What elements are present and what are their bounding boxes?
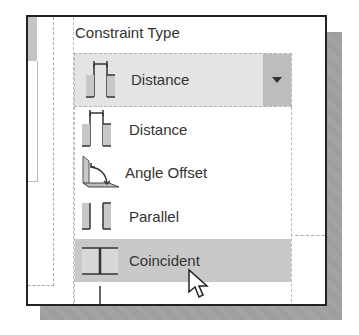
- left-box: [28, 61, 38, 182]
- distance-constraint-icon: [79, 109, 119, 149]
- mouse-cursor-icon: [187, 268, 211, 302]
- dropdown-arrow-icon: [272, 77, 282, 83]
- constraint-type-label: Constraint Type: [75, 24, 180, 41]
- list-item-coincident[interactable]: Coincident: [75, 239, 291, 282]
- list-item-partial[interactable]: [75, 282, 291, 306]
- coincident-constraint-icon: [79, 245, 119, 277]
- list-item-parallel[interactable]: Parallel: [75, 195, 291, 239]
- left-panel: [28, 17, 54, 286]
- constraint-panel: Constraint Type Distance: [26, 15, 327, 306]
- left-scroll-strip: [28, 17, 37, 61]
- list-item-label: Coincident: [129, 252, 200, 269]
- angle-offset-constraint-icon: [79, 153, 121, 195]
- constraint-type-dropdown[interactable]: Distance: [74, 53, 292, 107]
- distance-constraint-icon: [83, 60, 123, 100]
- divider: [290, 235, 327, 236]
- dropdown-button[interactable]: [263, 54, 291, 106]
- list-item-label: Distance: [129, 121, 187, 138]
- list-item-angle-offset[interactable]: Angle Offset: [75, 151, 291, 195]
- selected-value: Distance: [131, 71, 189, 88]
- list-item-distance[interactable]: Distance: [75, 107, 291, 151]
- partial-constraint-icon: [79, 284, 119, 304]
- parallel-constraint-icon: [79, 199, 119, 235]
- constraint-type-list: Distance Angle Offset Parallel: [74, 107, 292, 306]
- list-item-label: Angle Offset: [125, 164, 207, 181]
- list-item-label: Parallel: [129, 208, 179, 225]
